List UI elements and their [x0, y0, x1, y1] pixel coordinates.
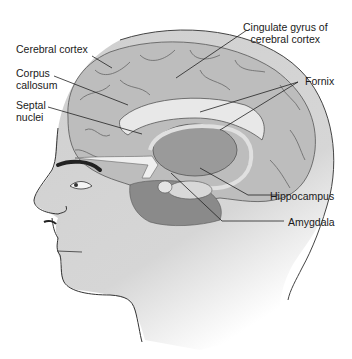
label-cingulate-gyrus: Cingulate gyrus of cerebral cortex — [243, 21, 328, 45]
label-septal-nuclei-line1: Septal — [16, 99, 46, 111]
label-septal-nuclei: Septal nuclei — [16, 99, 46, 123]
hippocampus-structure — [168, 181, 212, 199]
brain-diagram: Cerebral cortex Corpus callosum Septal n… — [0, 0, 352, 359]
label-cerebral-cortex: Cerebral cortex — [16, 43, 88, 55]
label-corpus-callosum-line1: Corpus — [16, 67, 57, 79]
label-cingulate-line2: cerebral cortex — [243, 33, 328, 45]
label-hippocampus: Hippocampus — [270, 190, 334, 202]
pupil — [74, 183, 78, 187]
label-corpus-callosum-line2: callosum — [16, 79, 57, 91]
label-septal-nuclei-line2: nuclei — [16, 111, 46, 123]
label-corpus-callosum: Corpus callosum — [16, 67, 57, 91]
label-amygdala: Amygdala — [288, 216, 335, 228]
nostril — [44, 221, 56, 224]
label-fornix: Fornix — [305, 75, 334, 87]
amygdala-structure — [158, 181, 172, 193]
label-cingulate-line1: Cingulate gyrus of — [243, 21, 328, 33]
